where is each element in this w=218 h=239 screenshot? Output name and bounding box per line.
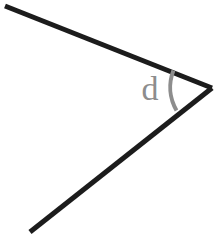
angle-figure: d	[0, 0, 218, 239]
angle-label: d	[142, 70, 159, 107]
angle-diagram-canvas: d	[0, 0, 218, 239]
figure-background	[0, 0, 218, 239]
